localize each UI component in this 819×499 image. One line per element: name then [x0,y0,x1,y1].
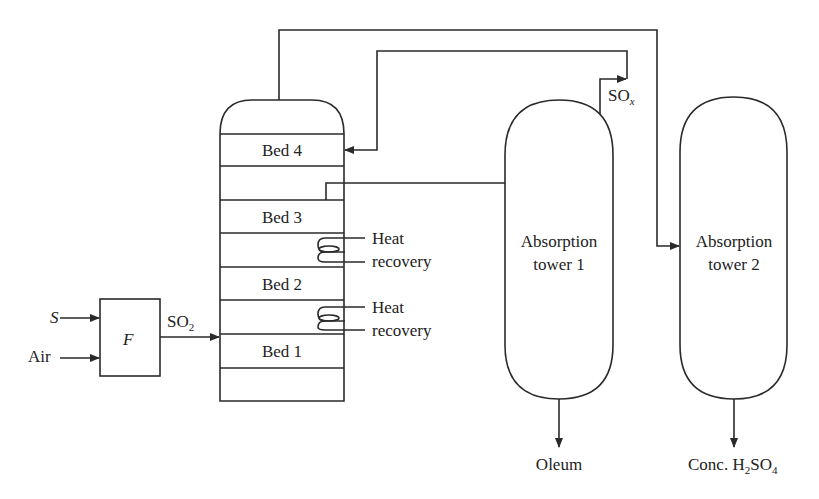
coil-icon [318,238,365,252]
sox-label: SOx [608,86,635,107]
bed-2-label: Bed 2 [262,275,302,294]
so2-label: SO2 [167,312,194,333]
heat-recovery-2-line1: Heat [372,298,404,317]
tower-1-line2: tower 1 [533,255,584,274]
air-label: Air [28,347,51,366]
conc-h2so4-label: Conc. H2SO4 [688,455,778,476]
so2-stream: SO2 [160,312,219,337]
coil-return [318,321,365,330]
tower-2-line2: tower 2 [708,255,759,274]
coil-return [318,252,365,262]
process-flow-diagram: S Air F SO2 Bed 4 Bed 3 Bed 2 Bed 1 Heat [0,0,819,499]
sulfur-label: S [50,308,59,327]
interpass-to-tower1-line [326,183,505,200]
heat-recovery-1-line2: recovery [372,252,432,271]
sulfur-input: S [50,308,99,327]
coil-icon [318,307,365,321]
oleum-label: Oleum [536,455,582,474]
coil-loop [319,246,339,252]
heat-recovery-1: Heat recovery [318,229,432,271]
coil-loop [319,315,339,321]
absorption-tower-2: Absorption tower 2 Conc. H2SO4 [680,97,787,476]
tower-2-line1: Absorption [696,232,773,251]
bed-1-label: Bed 1 [262,342,302,361]
bed-4-label: Bed 4 [262,141,303,160]
sox-recycle-to-bed4-line [345,51,627,150]
furnace-label: F [122,330,134,349]
bed-3-label: Bed 3 [262,208,302,227]
reactor-to-tower2-line [279,30,679,246]
furnace: F [100,299,160,376]
converter-reactor: Bed 4 Bed 3 Bed 2 Bed 1 [220,100,344,401]
heat-recovery-2-line2: recovery [372,321,432,340]
absorption-tower-1: Absorption tower 1 Oleum [505,100,613,474]
air-input: Air [28,347,99,366]
tower-1-line1: Absorption [521,232,598,251]
heat-recovery-1-line1: Heat [372,229,404,248]
